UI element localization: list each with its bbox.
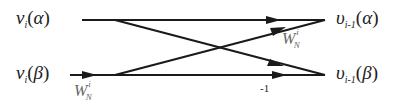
weight-sub: N: [294, 40, 300, 50]
minus-one-label: -1: [260, 82, 269, 94]
output-alpha-label: υi-1(α): [336, 7, 378, 30]
weight-sup: i: [88, 79, 91, 89]
input-alpha-arg: α: [34, 7, 44, 28]
output-beta-symbol: υ: [336, 62, 345, 83]
arrow-bottom-straight: [272, 71, 287, 79]
output-beta-arg: β: [362, 62, 371, 83]
arrow-input-beta: [82, 71, 97, 79]
output-beta-sub: i-1: [345, 74, 356, 85]
input-beta-arg: β: [34, 62, 43, 83]
cross-up-weight-label: WiN: [282, 30, 304, 48]
output-beta-label: υi-1(β): [336, 62, 378, 85]
weight-sub: N: [86, 92, 92, 102]
output-alpha-symbol: υ: [336, 7, 345, 28]
output-alpha-sub: i-1: [345, 19, 356, 30]
input-beta-label: νi(β): [16, 62, 49, 85]
input-beta-weight-label: WiN: [74, 82, 96, 100]
arrow-top-straight: [266, 16, 281, 24]
input-alpha-label: νi(α): [16, 7, 50, 30]
weight-sup: i: [296, 27, 299, 37]
output-alpha-arg: α: [362, 7, 372, 28]
